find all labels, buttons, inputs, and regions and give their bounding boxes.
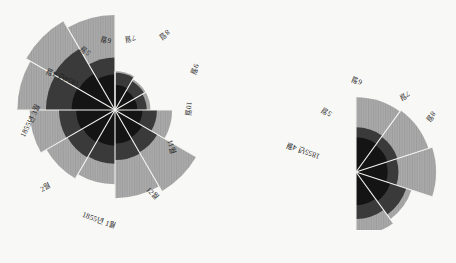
- month-label-layer: 1854년 4월5월6월7월8월9월10월11월12월1855년 1월2월185…: [0, 0, 456, 263]
- month-label: 8월: [157, 28, 171, 42]
- month-label: 2월: [39, 181, 53, 194]
- month-label: 1854년 4월: [44, 67, 81, 90]
- month-label: 5월: [320, 105, 334, 119]
- month-label: 10월: [184, 101, 194, 116]
- month-label: 1855년 4월: [284, 140, 321, 162]
- month-label: 5월: [78, 44, 92, 58]
- month-label: 12월: [144, 185, 161, 202]
- month-label: 6월: [350, 75, 363, 87]
- month-label: 9월: [188, 63, 201, 77]
- figure-root: 1854년 4월5월6월7월8월9월10월11월12월1855년 1월2월185…: [0, 0, 456, 263]
- month-label: 7월: [124, 33, 137, 44]
- month-label: 11월: [165, 139, 178, 155]
- month-label: 6월: [99, 34, 112, 46]
- month-label: 1855년 1월: [81, 209, 118, 231]
- month-label: 1855년 3월: [17, 102, 42, 138]
- month-label: 7월: [397, 89, 411, 102]
- month-label: 8월: [424, 109, 438, 123]
